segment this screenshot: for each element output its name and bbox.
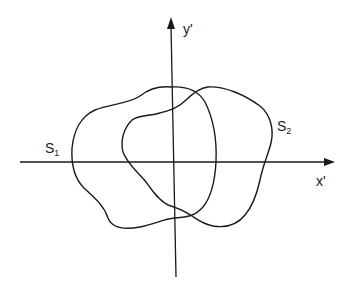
region-s2-label-sub: 2	[286, 126, 291, 136]
region-s1-label-main: S	[45, 140, 54, 156]
y-axis	[171, 26, 176, 277]
x-axis-label: x'	[316, 174, 326, 188]
region-s2-label-main: S	[277, 118, 286, 134]
y-axis-label: y'	[183, 22, 193, 36]
region-s2-label: S2	[277, 119, 291, 136]
region-s2-boundary	[122, 87, 272, 227]
x-axis-label-text: x'	[316, 173, 326, 189]
y-axis-label-text: y'	[183, 21, 193, 37]
region-s1-label: S1	[45, 141, 59, 158]
region-s1-label-sub: 1	[54, 148, 59, 158]
y-axis-arrow-icon	[167, 17, 175, 29]
x-axis-arrow-icon	[324, 158, 335, 166]
region-s1-boundary	[72, 87, 216, 229]
